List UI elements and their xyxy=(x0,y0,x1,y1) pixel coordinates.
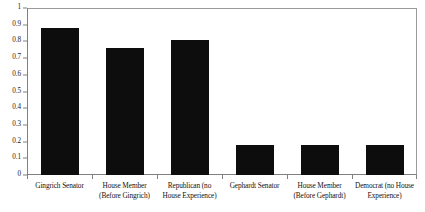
y-axis-tick-label: 0.9 xyxy=(12,21,21,28)
x-axis-tick-mark xyxy=(92,175,93,179)
x-axis-tick-mark xyxy=(27,175,28,179)
y-axis-tick-label: 0.4 xyxy=(12,105,21,112)
x-axis-label-line: Democrat (no House xyxy=(344,181,425,191)
y-axis-tick-label: 1 xyxy=(18,4,22,11)
bar-chart: 10.90.80.70.60.50.40.30.20.10 Gingrich S… xyxy=(0,0,425,212)
x-axis-label-line: Experience) xyxy=(344,191,425,201)
y-axis-tick-label: 0 xyxy=(18,171,22,178)
y-axis: 10.90.80.70.60.50.40.30.20.10 xyxy=(0,0,27,184)
x-axis-category-label: Democrat (no HouseExperience) xyxy=(344,181,425,200)
x-axis-tick-mark xyxy=(416,175,417,179)
x-axis-tick-mark xyxy=(157,175,158,179)
bar xyxy=(171,40,209,175)
x-axis-tick-mark xyxy=(352,175,353,179)
y-axis-tick-label: 0.5 xyxy=(12,88,21,95)
y-axis-tick-label: 0.3 xyxy=(12,121,21,128)
x-axis-ticks xyxy=(27,175,417,180)
bar xyxy=(236,145,274,175)
y-axis-tick-label: 0.8 xyxy=(12,38,21,45)
x-axis-tick-mark xyxy=(222,175,223,179)
bar xyxy=(366,145,404,175)
bar xyxy=(41,28,79,175)
x-axis-label-line: House Experience) xyxy=(149,191,231,201)
bar xyxy=(106,48,144,175)
bars-layer xyxy=(27,8,417,175)
x-axis-labels: Gingrich SenatorHouse Member(Before Ging… xyxy=(27,181,417,212)
y-axis-tick-label: 0.1 xyxy=(12,155,21,162)
y-axis-tick-label: 0.7 xyxy=(12,54,21,61)
y-axis-tick-label: 0.2 xyxy=(12,138,21,145)
x-axis-tick-mark xyxy=(287,175,288,179)
y-axis-tick-label: 0.6 xyxy=(12,71,21,78)
bar xyxy=(301,145,339,175)
